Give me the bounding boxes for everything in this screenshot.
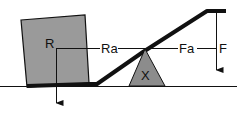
label-effort-arm: Fa bbox=[179, 41, 195, 56]
label-load-arm: Ra bbox=[101, 41, 118, 56]
label-fulcrum: X bbox=[141, 68, 150, 83]
load-box bbox=[21, 15, 89, 87]
lever-diagram: R Ra Fa F X bbox=[0, 0, 237, 116]
label-effort-force: F bbox=[219, 41, 227, 56]
label-load-force: R bbox=[45, 36, 54, 51]
